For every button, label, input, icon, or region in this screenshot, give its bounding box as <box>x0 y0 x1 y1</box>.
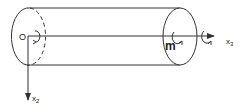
x2-label: x2 <box>32 94 40 104</box>
moment-arrow-x3-icon <box>202 31 210 43</box>
moment-arrowhead-origin-icon <box>33 40 36 44</box>
moment-label: m <box>165 39 176 53</box>
x3-label: x3 <box>226 37 234 47</box>
left-end-dashed-arc <box>27 8 46 65</box>
origin-label: O <box>19 32 26 42</box>
moment-arrowhead-x3-icon <box>208 41 211 45</box>
cylinder-diagram: O m x3 x2 <box>0 0 248 106</box>
